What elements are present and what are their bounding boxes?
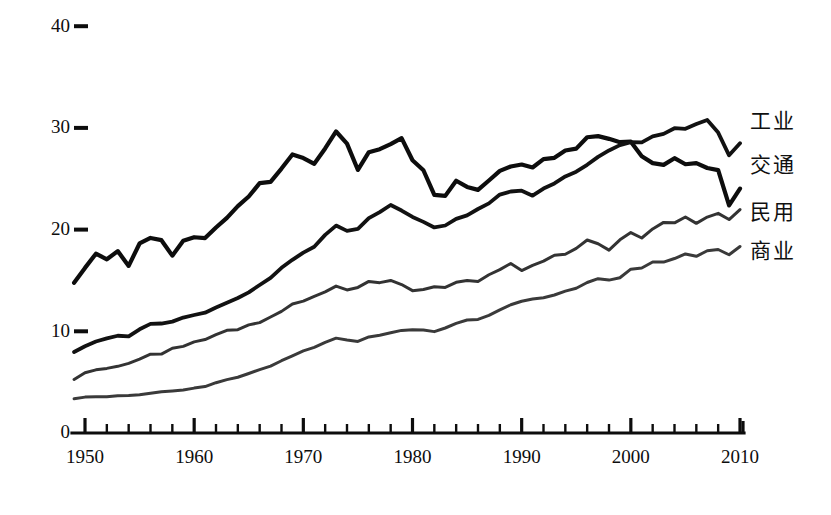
x-tick-label: 1950	[66, 446, 104, 467]
y-tick-label: 20	[51, 218, 70, 239]
series-labels: 工业交通民用商业	[750, 109, 796, 261]
x-tick-label: 1960	[175, 446, 213, 467]
y-tick-label: 0	[61, 421, 71, 442]
y-tick-label: 30	[51, 116, 70, 137]
series-label: 工业	[750, 109, 796, 132]
y-tick-label: 40	[51, 15, 70, 36]
series-group	[74, 120, 740, 399]
series-line	[74, 210, 740, 380]
line-chart: 1950196019701980199020002010010203040工业交…	[0, 0, 831, 515]
x-tick-label: 1970	[284, 446, 322, 467]
series-label: 商业	[750, 239, 796, 262]
y-axis-ticks: 010203040	[51, 15, 88, 443]
series-label: 民用	[750, 200, 796, 223]
x-tick-label: 2010	[721, 446, 759, 467]
x-tick-label: 1980	[394, 446, 432, 467]
chart-canvas: 1950196019701980199020002010010203040工业交…	[0, 0, 831, 515]
y-tick-label: 10	[51, 320, 70, 341]
x-axis-major-ticks: 1950196019701980199020002010	[66, 418, 759, 467]
series-line	[74, 131, 740, 282]
x-tick-label: 2000	[612, 446, 650, 467]
series-label: 交通	[750, 153, 796, 176]
x-tick-label: 1990	[503, 446, 541, 467]
